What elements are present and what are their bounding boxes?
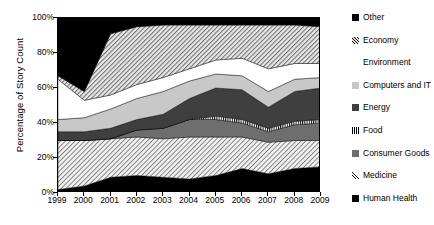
x-axis-tick-mark xyxy=(267,192,268,196)
legend-item-label: Consumer Goods xyxy=(363,149,430,158)
legend-item[interactable]: Consumer Goods xyxy=(352,148,430,159)
y-axis-tick-label: 40% xyxy=(20,118,54,126)
y-axis-tick-mark xyxy=(53,17,57,18)
y-axis-tick-label: 80% xyxy=(20,48,54,56)
x-axis-tick-mark xyxy=(320,192,321,196)
legend-item-label: Environment xyxy=(363,58,411,67)
y-axis-tick-mark xyxy=(53,157,57,158)
x-axis-tick-mark xyxy=(294,192,295,196)
legend-item-label: Computers and IT xyxy=(363,81,431,90)
chart-legend: OtherEconomyEnvironmentComputers and ITE… xyxy=(352,12,434,217)
legend-swatch-icon xyxy=(352,37,359,44)
legend-item[interactable]: Other xyxy=(352,12,384,23)
x-axis-tick-mark xyxy=(110,192,111,196)
x-axis-tick-mark xyxy=(136,192,137,196)
y-axis-tick-labels: 0%20%40%60%80%100% xyxy=(18,0,54,225)
legend-item[interactable]: Food xyxy=(352,125,382,136)
legend-item[interactable]: Computers and IT xyxy=(352,80,431,91)
legend-item-label: Economy xyxy=(363,36,398,45)
legend-item[interactable]: Human Health xyxy=(352,193,417,204)
legend-item-label: Other xyxy=(363,13,384,22)
x-axis-tick-label: 2009 xyxy=(300,195,340,205)
legend-item-label: Human Health xyxy=(363,194,417,203)
y-axis-tick-label: 100% xyxy=(20,13,54,21)
x-axis-tick-mark xyxy=(241,192,242,196)
legend-item-label: Energy xyxy=(363,103,390,112)
legend-item[interactable]: Energy xyxy=(352,102,390,113)
y-axis-tick-label: 20% xyxy=(20,153,54,161)
y-axis-tick-label: 60% xyxy=(20,83,54,91)
legend-swatch-icon xyxy=(352,195,359,202)
legend-item[interactable]: Environment xyxy=(352,57,411,68)
chart-figure: Percentage of Story Count 0%20%40%60%80%… xyxy=(0,0,434,225)
legend-item-label: Food xyxy=(363,126,382,135)
y-axis-tick-mark xyxy=(53,87,57,88)
legend-swatch-icon xyxy=(352,104,359,111)
x-axis-tick-mark xyxy=(215,192,216,196)
legend-item[interactable]: Medicine xyxy=(352,170,397,181)
x-axis-tick-mark xyxy=(162,192,163,196)
legend-item[interactable]: Economy xyxy=(352,35,398,46)
area-bands xyxy=(58,18,320,192)
legend-swatch-icon xyxy=(352,150,359,157)
legend-swatch-icon xyxy=(352,14,359,21)
x-axis-tick-mark xyxy=(57,192,58,196)
legend-item-label: Medicine xyxy=(363,171,397,180)
x-axis-tick-mark xyxy=(189,192,190,196)
legend-swatch-icon xyxy=(352,59,359,66)
stacked-area-svg xyxy=(58,18,320,192)
y-axis-tick-mark xyxy=(53,122,57,123)
x-axis-tick-mark xyxy=(83,192,84,196)
y-axis-tick-mark xyxy=(53,52,57,53)
legend-swatch-icon xyxy=(352,172,359,179)
legend-swatch-icon xyxy=(352,127,359,134)
plot-area xyxy=(57,17,320,192)
legend-swatch-icon xyxy=(352,82,359,89)
